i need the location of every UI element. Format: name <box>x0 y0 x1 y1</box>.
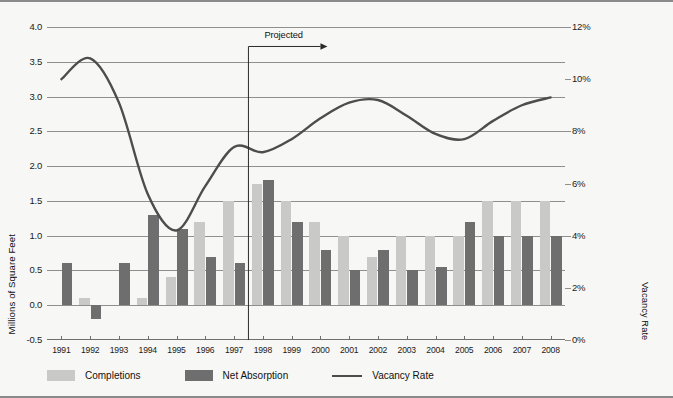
right-axis-tick <box>565 340 571 341</box>
x-axis-tick <box>205 336 206 340</box>
x-axis-tick <box>292 336 293 340</box>
legend-label: Net Absorption <box>223 370 289 381</box>
left-axis-tick-label: 0.0 <box>29 300 42 310</box>
legend-swatch-icon <box>185 370 213 381</box>
x-axis-tick <box>234 336 235 340</box>
left-axis-tick-label: 2.5 <box>29 126 42 136</box>
x-axis-label: 1991 <box>52 345 70 355</box>
right-axis-tick-label: 2% <box>572 283 585 293</box>
x-axis-tick <box>493 336 494 340</box>
x-axis-tick <box>378 336 379 340</box>
right-axis-tick-label: 10% <box>572 74 590 84</box>
right-axis-tick-label: 6% <box>572 179 585 189</box>
x-axis-tick <box>320 336 321 340</box>
x-axis-tick <box>522 336 523 340</box>
right-axis-tick <box>565 288 571 289</box>
left-axis-tick-label: 0.5 <box>29 265 42 275</box>
legend-item[interactable]: Vacancy Rate <box>332 370 434 381</box>
x-axis-tick <box>349 336 350 340</box>
legend-item[interactable]: Completions <box>47 370 141 381</box>
plot-area: 1991199219931994199519961997199819992000… <box>47 27 565 340</box>
x-axis-tick <box>436 336 437 340</box>
vacancy-rate-path <box>61 58 550 231</box>
x-axis-tick <box>148 336 149 340</box>
x-axis-tick <box>407 336 408 340</box>
legend-label: Completions <box>85 370 141 381</box>
x-axis <box>47 339 565 341</box>
x-axis-label: 1998 <box>254 345 272 355</box>
right-axis-tick <box>565 236 571 237</box>
x-axis-label: 1994 <box>139 345 157 355</box>
legend-item[interactable]: Net Absorption <box>185 370 289 381</box>
legend-label: Vacancy Rate <box>372 370 434 381</box>
right-axis-tick <box>565 79 571 80</box>
left-axis-tick-label: 1.5 <box>29 196 42 206</box>
left-axis-tick-label: 2.0 <box>29 161 42 171</box>
right-axis-tick-label: 12% <box>572 22 590 32</box>
x-axis-label: 2007 <box>513 345 531 355</box>
left-axis-tick-label: 3.5 <box>29 57 42 67</box>
left-axis-title: Millions of Square Feet <box>6 234 17 334</box>
x-axis-label: 2003 <box>398 345 416 355</box>
right-axis-tick <box>565 131 571 132</box>
x-axis-label: 2001 <box>340 345 358 355</box>
x-axis-tick <box>177 336 178 340</box>
x-axis-label: 2004 <box>426 345 444 355</box>
right-axis-tick-label: 4% <box>572 231 585 241</box>
x-axis-label: 2002 <box>369 345 387 355</box>
vacancy-rate-line <box>47 27 565 340</box>
x-axis-label: 2000 <box>311 345 329 355</box>
x-axis-label: 1992 <box>81 345 99 355</box>
projected-label: Projected <box>264 30 302 40</box>
x-axis-label: 1993 <box>110 345 128 355</box>
x-axis-tick <box>119 336 120 340</box>
x-axis-tick <box>263 336 264 340</box>
x-axis-tick <box>551 336 552 340</box>
x-axis-label: 1995 <box>167 345 185 355</box>
x-axis-label: 2005 <box>455 345 473 355</box>
x-axis-tick <box>90 336 91 340</box>
right-axis-tick-label: 0% <box>572 335 585 345</box>
x-axis-label: 2006 <box>484 345 502 355</box>
legend-swatch-icon <box>332 375 362 377</box>
x-axis-tick <box>61 336 62 340</box>
left-axis-tick-label: 3.0 <box>29 92 42 102</box>
x-axis-tick <box>464 336 465 340</box>
x-axis-label: 2008 <box>541 345 559 355</box>
chart-figure: Millions of Square Feet Vacancy Rate 199… <box>0 0 673 398</box>
x-axis-label: 1999 <box>282 345 300 355</box>
x-axis-label: 1996 <box>196 345 214 355</box>
left-axis-tick-label: -0.5 <box>26 335 42 345</box>
right-axis-tick-label: 8% <box>572 126 585 136</box>
left-axis-tick-label: 1.0 <box>29 231 42 241</box>
right-axis-title: Vacancy Rate <box>640 282 650 340</box>
x-axis-label: 1997 <box>225 345 243 355</box>
chart-legend: CompletionsNet AbsorptionVacancy Rate <box>47 370 478 381</box>
right-axis-tick <box>565 27 571 28</box>
left-axis-tick-label: 4.0 <box>29 22 42 32</box>
legend-swatch-icon <box>47 370 75 381</box>
right-axis-tick <box>565 184 571 185</box>
